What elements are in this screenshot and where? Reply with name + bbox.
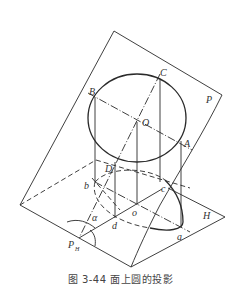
- plane-h-outline: [20, 205, 225, 267]
- plane-h-back-right: [168, 188, 225, 217]
- label-alpha: α: [92, 212, 98, 223]
- label-H: H: [202, 210, 211, 221]
- figure-caption: 图 3-44 面上圆的投影: [0, 271, 241, 286]
- label-P: P: [205, 94, 212, 105]
- label-D: D: [104, 163, 113, 174]
- diagram-canvas: C B O A P D b c o d a H α P H: [0, 0, 241, 290]
- label-O: O: [142, 117, 149, 128]
- label-C: C: [160, 67, 167, 78]
- label-trace-p: P: [67, 239, 74, 250]
- label-B: B: [89, 86, 95, 97]
- label-d: d: [112, 220, 118, 231]
- label-trace-sub: H: [74, 246, 80, 252]
- center-line-ba: [88, 93, 192, 150]
- labels: C B O A P D b c o d a H α P H: [67, 67, 212, 252]
- label-A: A: [183, 138, 191, 149]
- angle-arc: [67, 220, 95, 228]
- projection-ellipse-solid: [150, 180, 183, 230]
- label-b: b: [84, 180, 89, 191]
- label-c: c: [161, 183, 166, 194]
- label-o: o: [132, 207, 137, 218]
- plane-p-outline: [20, 31, 222, 205]
- h-center-ba: [95, 182, 190, 232]
- label-a: a: [177, 231, 182, 242]
- angle-arc-2: [90, 230, 95, 246]
- projection-ellipse-dashed: [94, 170, 165, 228]
